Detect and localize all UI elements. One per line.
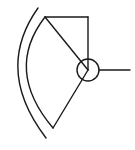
sector-antenna-symbol-icon bbox=[0, 0, 135, 150]
lower-radius-line bbox=[53, 70, 88, 128]
inner-arc bbox=[26, 17, 53, 128]
upper-radius-line bbox=[45, 17, 88, 70]
diagram-canvas bbox=[0, 0, 135, 150]
outer-arc bbox=[18, 8, 46, 138]
